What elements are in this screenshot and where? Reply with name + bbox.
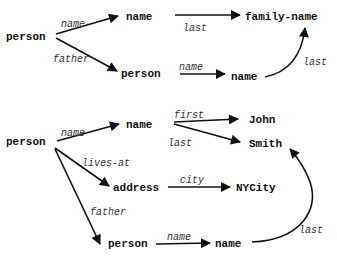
diagram-canvas: name father last name last person name f…	[0, 0, 337, 259]
node-person: person	[6, 31, 46, 43]
edge-label: first	[174, 110, 204, 121]
edge-label: lives-at	[82, 158, 130, 169]
edge-label: last	[183, 23, 207, 34]
node-nycity: NYCity	[236, 182, 276, 194]
node-john: John	[249, 114, 275, 126]
edge-label: father	[53, 54, 89, 65]
graph-bottom: name first last lives-at city father nam…	[6, 110, 323, 250]
edge-label: last	[303, 57, 327, 68]
edge-label: name	[61, 19, 85, 30]
diagram-svg: name father last name last person name f…	[0, 0, 337, 259]
edge-label: name	[167, 232, 191, 243]
edge-label: name	[61, 128, 85, 139]
edge-label: last	[168, 138, 192, 149]
node-smith: Smith	[249, 138, 282, 150]
node-name: name	[126, 119, 153, 131]
node-person: person	[108, 238, 148, 250]
node-name: name	[215, 238, 242, 250]
edge-label: city	[180, 175, 205, 186]
node-address: address	[113, 182, 159, 194]
edge-top-name2-last	[265, 28, 305, 77]
edge-bottom-person2-name	[156, 243, 210, 244]
node-person: person	[121, 68, 161, 80]
node-person: person	[6, 136, 46, 148]
node-name: name	[231, 71, 258, 83]
edge-label: father	[90, 207, 126, 218]
graph-top: name father last name last person name f…	[6, 11, 327, 83]
node-family-name: family-name	[245, 11, 318, 23]
edge-label: last	[299, 225, 323, 236]
node-name: name	[126, 11, 153, 23]
edge-label: name	[179, 62, 203, 73]
